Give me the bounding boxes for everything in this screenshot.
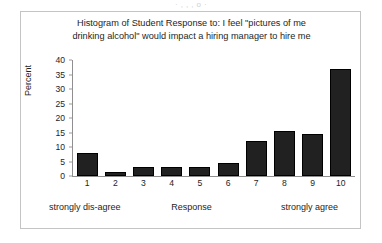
x-tick-label: 10 [327, 178, 355, 188]
chart-figure: Histogram of Student Response to: I feel… [20, 11, 361, 229]
x-tick-label: 5 [186, 178, 214, 188]
bar [274, 131, 295, 176]
x-tick-label: 6 [214, 178, 242, 188]
x-tick-label: 1 [73, 178, 101, 188]
bar-slot [158, 60, 186, 176]
axis-annotations: strongly dis-agree Response strongly agr… [31, 202, 352, 216]
bar [302, 134, 323, 176]
bar [189, 167, 210, 176]
bar [105, 172, 126, 176]
x-tick-label: 7 [242, 178, 270, 188]
y-tick-label: 20 [55, 113, 65, 123]
y-tick-label: 0 [60, 171, 65, 181]
bar-slot [129, 60, 157, 176]
bar-slot [214, 60, 242, 176]
bar-series [73, 60, 355, 176]
bar-slot [73, 60, 101, 176]
y-tick-label: 10 [55, 142, 65, 152]
chart-title-line-2: drinking alcohol" would impact a hiring … [31, 30, 352, 43]
bar-slot [327, 60, 355, 176]
bar-slot [299, 60, 327, 176]
x-axis-ticks: 12345678910 [73, 178, 355, 188]
x-tick-label: 4 [158, 178, 186, 188]
y-tick-label: 25 [55, 99, 65, 109]
x-axis-line [72, 176, 355, 177]
y-tick-label: 40 [55, 55, 65, 65]
bar [133, 167, 154, 176]
plot-area: Percent 40 35 30 25 20 15 10 5 0 1234567… [45, 60, 355, 186]
x-tick-label: 9 [299, 178, 327, 188]
bar-slot [242, 60, 270, 176]
bar [330, 69, 351, 176]
y-tick-label: 5 [60, 157, 65, 167]
bar [246, 141, 267, 176]
annotation-strongly-agree: strongly agree [281, 202, 338, 212]
scan-artifact-text: · , , , o · [0, 0, 382, 9]
bar [77, 153, 98, 176]
y-tick-label: 15 [55, 128, 65, 138]
y-axis-label: Percent [23, 65, 33, 96]
y-tick-label: 30 [55, 84, 65, 94]
x-tick-label: 2 [101, 178, 129, 188]
bar-slot [270, 60, 298, 176]
bar-slot [186, 60, 214, 176]
x-tick-label: 3 [129, 178, 157, 188]
chart-title-line-1: Histogram of Student Response to: I feel… [31, 17, 352, 30]
bar [218, 163, 239, 176]
x-tick-label: 8 [270, 178, 298, 188]
y-tick-label: 35 [55, 70, 65, 80]
bar-slot [101, 60, 129, 176]
chart-title: Histogram of Student Response to: I feel… [31, 17, 352, 42]
y-axis-ticks: 40 35 30 25 20 15 10 5 0 [45, 60, 69, 176]
bar [161, 167, 182, 176]
